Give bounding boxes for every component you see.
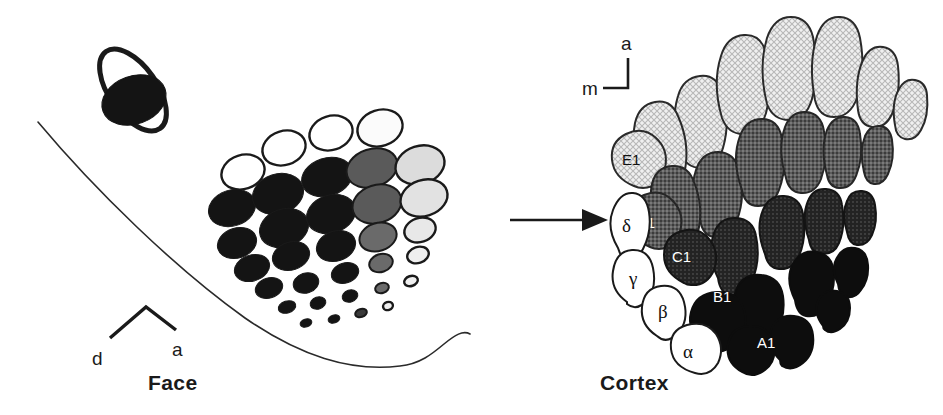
barrel-alpha-label: α	[683, 341, 693, 362]
barrel-d3	[736, 119, 784, 206]
whisker-to-barrel-figure: d a Face m a E1	[0, 0, 943, 415]
barrel-b1-label: B1	[713, 288, 731, 305]
face-axis-a-label: a	[172, 339, 183, 360]
face-panel-label: Face	[148, 371, 197, 394]
barrel-e2b	[812, 17, 862, 117]
cortex-panel-label: Cortex	[600, 371, 669, 394]
barrel-d2	[824, 117, 862, 188]
face-axis-d-label: d	[92, 348, 103, 369]
barrel-e2	[857, 47, 899, 127]
barrel-d1r	[862, 126, 893, 184]
barrel-c1r	[844, 191, 876, 245]
barrel-a1-label: A1	[757, 334, 775, 351]
barrel-e1-label: E1	[622, 151, 640, 168]
barrel-c1-label: C1	[672, 248, 691, 265]
barrel-e3	[763, 17, 817, 120]
barrel-gamma-label: γ	[628, 268, 637, 289]
barrel-delta-label: δ	[622, 215, 631, 236]
cortex-axis-a-label: a	[621, 33, 632, 54]
cortex-axis-m-label: m	[582, 78, 598, 99]
barrel-c2	[805, 189, 844, 254]
barrel-d2b	[781, 112, 826, 193]
barrel-beta-label: β	[658, 301, 668, 322]
